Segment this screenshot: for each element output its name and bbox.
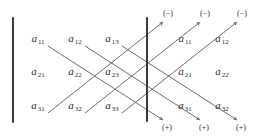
entry-base: a: [105, 32, 111, 44]
matrix-entry-a31: a31: [31, 100, 45, 115]
entry-subscript: 21: [38, 71, 45, 79]
entry-subscript: 21: [185, 71, 192, 79]
negative-sign-label-1: (−): [163, 10, 173, 18]
entry-base: a: [105, 65, 111, 77]
sarrus-rule-diagram: a11a12a13a21a22a23a31a32a33 a11a12a21a22…: [0, 0, 263, 139]
positive-sign-label-2: (+): [199, 124, 209, 132]
repeated-entry-a12: a12: [215, 33, 229, 48]
matrix-entry-a23: a23: [105, 66, 119, 81]
repeated-entry-a11: a11: [178, 33, 191, 48]
entry-base: a: [68, 32, 74, 44]
entry-base: a: [178, 99, 184, 111]
negative-sign-label-3: (−): [237, 10, 247, 18]
entry-base: a: [31, 32, 37, 44]
entry-base: a: [215, 65, 221, 77]
entry-subscript: 12: [75, 38, 82, 46]
entry-subscript: 11: [38, 38, 45, 46]
matrix-entry-a33: a33: [105, 100, 119, 115]
positive-sign-label-3: (+): [236, 124, 246, 132]
entry-subscript: 22: [75, 71, 82, 79]
repeated-entry-a21: a21: [178, 66, 192, 81]
entry-subscript: 22: [222, 71, 229, 79]
entry-subscript: 23: [112, 71, 119, 79]
entry-subscript: 32: [75, 105, 82, 113]
entry-base: a: [178, 65, 184, 77]
entry-subscript: 31: [185, 105, 192, 113]
entry-subscript: 12: [222, 38, 229, 46]
repeated-entry-a31: a31: [178, 100, 192, 115]
entry-base: a: [215, 32, 221, 44]
repeated-entry-a32: a32: [215, 100, 229, 115]
matrix-entry-a22: a22: [68, 66, 82, 81]
entry-subscript: 33: [112, 105, 119, 113]
repeated-entry-a22: a22: [215, 66, 229, 81]
entry-base: a: [178, 32, 184, 44]
entry-base: a: [31, 99, 37, 111]
entry-subscript: 32: [222, 105, 229, 113]
matrix-entry-a32: a32: [68, 100, 82, 115]
entry-base: a: [105, 99, 111, 111]
entry-base: a: [215, 99, 221, 111]
matrix-entry-a12: a12: [68, 33, 82, 48]
matrix-entry-a13: a13: [105, 33, 119, 48]
matrix-entry-a11: a11: [31, 33, 44, 48]
positive-sign-label-1: (+): [162, 124, 172, 132]
entry-subscript: 13: [112, 38, 119, 46]
entry-subscript: 11: [185, 38, 192, 46]
matrix-entry-a21: a21: [31, 66, 45, 81]
entry-subscript: 31: [38, 105, 45, 113]
entry-base: a: [31, 65, 37, 77]
entry-base: a: [68, 65, 74, 77]
negative-sign-label-2: (−): [200, 10, 210, 18]
entry-base: a: [68, 99, 74, 111]
